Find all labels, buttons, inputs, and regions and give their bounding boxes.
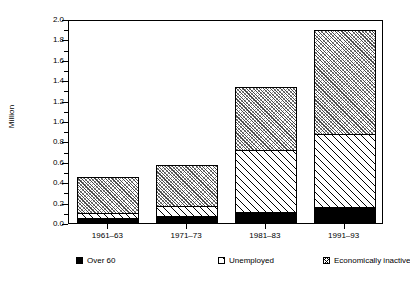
bar-segment[interactable] xyxy=(314,207,376,223)
bar-slot xyxy=(305,21,384,223)
plot-area xyxy=(68,20,383,224)
bar-segment[interactable] xyxy=(156,216,218,223)
legend-swatch-icon xyxy=(76,257,83,264)
y-tick-label: 1.4 xyxy=(24,77,64,85)
y-tick-label: 1.6 xyxy=(24,57,64,65)
legend-item[interactable]: Over 60 xyxy=(76,256,115,265)
bar-slot xyxy=(227,21,306,223)
bar-segment[interactable] xyxy=(235,87,297,149)
x-tick-label: 1961–63 xyxy=(67,231,147,240)
stacked-bar[interactable] xyxy=(156,165,218,223)
chart-legend: Over 60UnemployedEconomically inactive xyxy=(68,256,383,270)
x-tick xyxy=(265,224,266,229)
legend-label: Economically inactive xyxy=(334,256,410,265)
bar-segment[interactable] xyxy=(156,165,218,206)
legend-swatch-icon xyxy=(323,257,330,264)
y-tick-label: 0.6 xyxy=(24,159,64,167)
y-tick-label: 1.8 xyxy=(24,36,64,44)
bar-slot xyxy=(69,21,148,223)
legend-item[interactable]: Economically inactive xyxy=(323,256,410,265)
bar-segment[interactable] xyxy=(235,150,297,212)
x-tick xyxy=(186,224,187,229)
bar-segment[interactable] xyxy=(77,218,139,223)
x-tick-label: 1981–83 xyxy=(225,231,305,240)
stacked-bar[interactable] xyxy=(235,87,297,223)
bar-segment[interactable] xyxy=(235,212,297,223)
x-tick xyxy=(344,224,345,229)
bar-segment[interactable] xyxy=(314,30,376,134)
legend-label: Unemployed xyxy=(229,256,274,265)
y-tick-label: 1.0 xyxy=(24,118,64,126)
bar-segment[interactable] xyxy=(77,177,139,213)
y-axis-title: Million xyxy=(7,87,16,147)
y-tick-label: 0.2 xyxy=(24,200,64,208)
y-tick-label: 2.0 xyxy=(24,16,64,24)
bar-segment[interactable] xyxy=(77,213,139,218)
legend-item[interactable]: Unemployed xyxy=(218,256,274,265)
bar-slot xyxy=(148,21,227,223)
legend-swatch-icon xyxy=(218,257,225,264)
y-tick-label: 0.8 xyxy=(24,138,64,146)
y-tick-label: 0.0 xyxy=(24,220,64,228)
y-tick-label: 1.2 xyxy=(24,98,64,106)
legend-label: Over 60 xyxy=(87,256,115,265)
stacked-bar[interactable] xyxy=(314,30,376,223)
bar-segment[interactable] xyxy=(156,206,218,216)
y-tick-label: 0.4 xyxy=(24,179,64,187)
x-tick-label: 1971–73 xyxy=(146,231,226,240)
x-tick xyxy=(107,224,108,229)
bars-group xyxy=(69,21,382,223)
stacked-bar[interactable] xyxy=(77,177,139,223)
x-tick-label: 1991–93 xyxy=(304,231,384,240)
bar-segment[interactable] xyxy=(314,134,376,206)
